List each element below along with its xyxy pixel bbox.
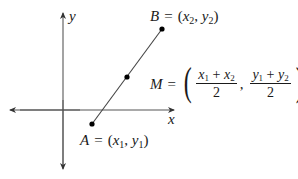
comma: ,	[194, 8, 198, 24]
fraction-y-term-2-subscript: 2	[284, 73, 289, 83]
point-b-name: B	[150, 8, 159, 24]
formula-separator: ,	[240, 76, 244, 93]
equals-sign: =	[164, 8, 172, 24]
equals-sign: =	[94, 132, 102, 148]
point-a	[89, 121, 94, 126]
point-b-y-subscript: 2	[208, 15, 213, 26]
plus-sign: +	[267, 67, 275, 82]
fraction-x-numerator: x1 + x2	[196, 67, 236, 84]
fraction-x-term-1: x	[198, 67, 204, 82]
formula-lhs: M	[150, 76, 163, 93]
fraction-x: x1 + x2 2	[196, 67, 236, 101]
formula-equals: =	[168, 76, 176, 93]
point-a-name: A	[80, 132, 89, 148]
formula-close-paren: )	[295, 62, 298, 102]
point-b	[159, 26, 164, 31]
fraction-y-term-1-subscript: 1	[259, 73, 264, 83]
point-a-label: A=(x1, y1)	[80, 133, 148, 148]
y-axis-label: y	[69, 9, 76, 24]
fraction-y-numerator: y1 + y2	[250, 67, 290, 84]
point-m	[124, 74, 129, 79]
point-b-label: B=(x2, y2)	[150, 9, 218, 24]
point-a-y-subscript: 1	[138, 139, 143, 150]
fraction-x-term-2-subscript: 2	[230, 73, 235, 83]
close-paren: )	[213, 8, 218, 24]
point-b-x-subscript: 2	[189, 15, 194, 26]
x-axis-label: x	[168, 112, 175, 127]
fraction-x-denominator: 2	[213, 84, 220, 101]
fraction-x-term-1-subscript: 1	[205, 73, 210, 83]
plus-sign: +	[213, 67, 221, 82]
comma: ,	[124, 132, 128, 148]
point-a-x-subscript: 1	[119, 139, 124, 150]
close-paren: )	[143, 132, 148, 148]
fraction-y-denominator: 2	[267, 84, 274, 101]
fraction-y-term-1: y	[252, 67, 258, 82]
midpoint-formula: M = ( x1 + x2 2 , y1 + y2 2 )	[150, 66, 298, 102]
fraction-y: y1 + y2 2	[250, 67, 290, 101]
formula-open-paren: (	[184, 62, 192, 102]
